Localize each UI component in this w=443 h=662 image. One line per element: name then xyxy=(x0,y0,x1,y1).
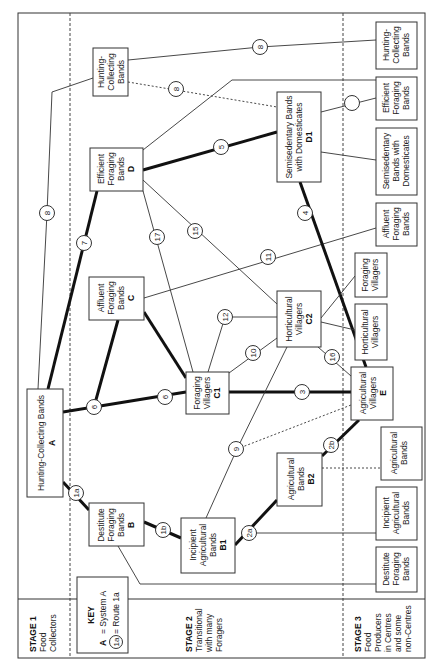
system-c1-line-2: Villagers xyxy=(202,377,212,409)
outcome-affluent-foraging[interactable]: Affluent Foraging Bands xyxy=(376,203,417,246)
system-b2-line-1: Agricultural xyxy=(286,458,296,501)
stage3-title: STAGE 3 xyxy=(353,616,363,652)
stage2-line-3: Foragers xyxy=(214,618,224,652)
system-d1-box[interactable]: Semisedentary Bands with Domesticates D1 xyxy=(277,92,321,182)
route-2a-label: 2a xyxy=(245,528,254,537)
system-d1-code: D1 xyxy=(304,131,314,142)
route-16-label: 17 xyxy=(153,232,162,241)
outcome-hunting-collecting[interactable]: Hunting- Collecting Bands xyxy=(376,22,417,69)
system-c2-code: C2 xyxy=(304,313,314,324)
system-c-line-1: Affluent xyxy=(96,283,106,312)
route-marker-4[interactable]: 4 xyxy=(298,206,313,221)
outcome-efficient-foraging[interactable]: Efficient Foraging Bands xyxy=(376,77,417,120)
o-ab-2: Bands xyxy=(399,441,409,465)
o-dfb-3: Bands xyxy=(401,557,411,581)
route-marker-13a[interactable]: 8 xyxy=(40,206,55,221)
outcome-destitute-foraging[interactable]: Destitute Foraging Bands xyxy=(376,547,417,592)
system-b2-box[interactable]: Agricultural Bands B2 xyxy=(277,453,322,506)
stage2-line-1: Transitional xyxy=(194,608,204,652)
route-d1-sbd-line xyxy=(321,152,376,160)
route-4-label: 4 xyxy=(301,210,310,215)
route-marker-2b[interactable]: 2b xyxy=(324,438,339,453)
route-marker-14[interactable]: 15 xyxy=(188,224,203,239)
system-c-line-3: Bands xyxy=(116,286,126,310)
route-14-label: 15 xyxy=(191,226,200,235)
key-title: KEY xyxy=(86,606,96,624)
route-5-label: 5 xyxy=(217,144,226,149)
o-efb-3: Bands xyxy=(401,86,411,110)
system-e-code: E xyxy=(378,390,388,396)
route-marker-7[interactable]: 7 xyxy=(77,236,92,251)
route-6a-label: 6 xyxy=(90,404,99,409)
stage3-label: STAGE 3 Food Producers in Centres and so… xyxy=(353,605,413,652)
outcome-agricultural-bands[interactable]: Agricultural Bands xyxy=(381,427,422,480)
route-marker-17[interactable] xyxy=(345,96,360,111)
o-hcb-2: Collecting xyxy=(391,26,401,64)
key-route-symbol: 1a xyxy=(112,637,121,646)
route-marker-15[interactable]: 16 xyxy=(325,350,340,365)
route-c2-fv-line xyxy=(321,276,355,318)
route-marker-9[interactable]: 9 xyxy=(229,442,244,457)
route-marker-6a[interactable]: 6 xyxy=(87,400,102,415)
hcb-line-2: Collecting xyxy=(106,53,116,91)
system-c1-line-1: Foraging xyxy=(192,376,202,410)
route-1a-label: 1a xyxy=(72,488,81,497)
route-marker-13b[interactable]: 8 xyxy=(253,40,268,55)
stage3-line-5: non-Centres xyxy=(403,605,413,652)
outcome-horticultural-villagers[interactable]: Horticultural Villagers xyxy=(355,304,387,360)
system-c-line-2: Foraging xyxy=(106,281,116,315)
system-b-line-1: Destitute xyxy=(96,508,106,542)
system-c-code: C xyxy=(126,295,136,301)
route-marker-5[interactable]: 5 xyxy=(214,140,229,155)
system-c1-box[interactable]: Foraging Villagers C1 xyxy=(186,372,229,414)
stage1-title: STAGE 1 xyxy=(28,616,38,652)
route-b-dfb-line xyxy=(118,546,376,584)
system-c2-box[interactable]: Horticultural Villagers C2 xyxy=(277,291,321,347)
route-marker-3[interactable]: 3 xyxy=(295,385,310,400)
stage2-hunting-collecting-box[interactable]: Hunting- Collecting Bands xyxy=(93,48,128,96)
stage3-line-1: Food xyxy=(363,632,373,652)
route-6b-label: 6 xyxy=(161,394,170,399)
outcome-incipient-agricultural[interactable]: Incipient Agricultural Bands xyxy=(376,487,417,540)
o-afb-2: Foraging xyxy=(391,207,401,241)
route-marker-2a[interactable]: 2a xyxy=(242,526,257,541)
system-d-box[interactable]: Efficient Foraging Bands D xyxy=(90,148,143,191)
outcome-foraging-villagers[interactable]: Foraging Villagers xyxy=(355,253,387,297)
o-sbd-3: Domesticates xyxy=(401,135,411,187)
system-b1-box[interactable]: Incipient Agricultural Bands B1 xyxy=(181,518,235,573)
route-marker-1a[interactable]: 1a xyxy=(69,486,84,501)
route-marker-10[interactable]: 10 xyxy=(246,346,261,361)
system-b-box[interactable]: Destitute Foraging Bands B xyxy=(89,503,144,546)
route-2a-line xyxy=(235,500,277,545)
system-d-line-3: Bands xyxy=(116,157,126,181)
o-fv-2: Villagers xyxy=(370,259,380,291)
route-10-label: 10 xyxy=(249,348,258,357)
stage3-line-3: in Centres xyxy=(383,613,393,652)
system-b-line-3: Bands xyxy=(116,513,126,537)
route-12-line xyxy=(208,317,277,372)
hcb-line-3: Bands xyxy=(116,60,126,84)
system-d1-line-1: Semisedentary Bands xyxy=(284,95,294,178)
route-9-label: 9 xyxy=(232,446,241,451)
route-marker-1b[interactable]: 1b xyxy=(156,523,171,538)
route-2b-label: 2b xyxy=(327,440,336,449)
route-marker-16[interactable]: 17 xyxy=(150,230,165,245)
route-13-line-a xyxy=(38,78,93,389)
route-11-label: 11 xyxy=(264,252,273,261)
route-15-label: 16 xyxy=(328,352,337,361)
key-system-label: = System A xyxy=(98,590,108,634)
outcome-semisedentary[interactable]: Semisedentary Bands with Domesticates xyxy=(376,128,417,195)
stage3-line-2: Producers xyxy=(373,613,383,652)
route-marker-12[interactable]: 12 xyxy=(218,310,233,325)
route-11-line xyxy=(144,228,376,298)
system-c-box[interactable]: Affluent Foraging Bands C xyxy=(89,277,144,320)
route-5-line xyxy=(143,132,277,170)
system-d-code: D xyxy=(126,166,136,172)
system-a-box[interactable]: Hunting-Collecting Bands A xyxy=(27,389,63,497)
route-marker-8[interactable]: 8 xyxy=(169,82,184,97)
o-dfb-2: Foraging xyxy=(391,552,401,586)
route-marker-6b[interactable]: 6 xyxy=(158,390,173,405)
route-marker-11[interactable]: 11 xyxy=(261,250,276,265)
route-6-line-a xyxy=(63,320,118,412)
system-e-box[interactable]: Agricultural Villagers E xyxy=(351,367,393,420)
